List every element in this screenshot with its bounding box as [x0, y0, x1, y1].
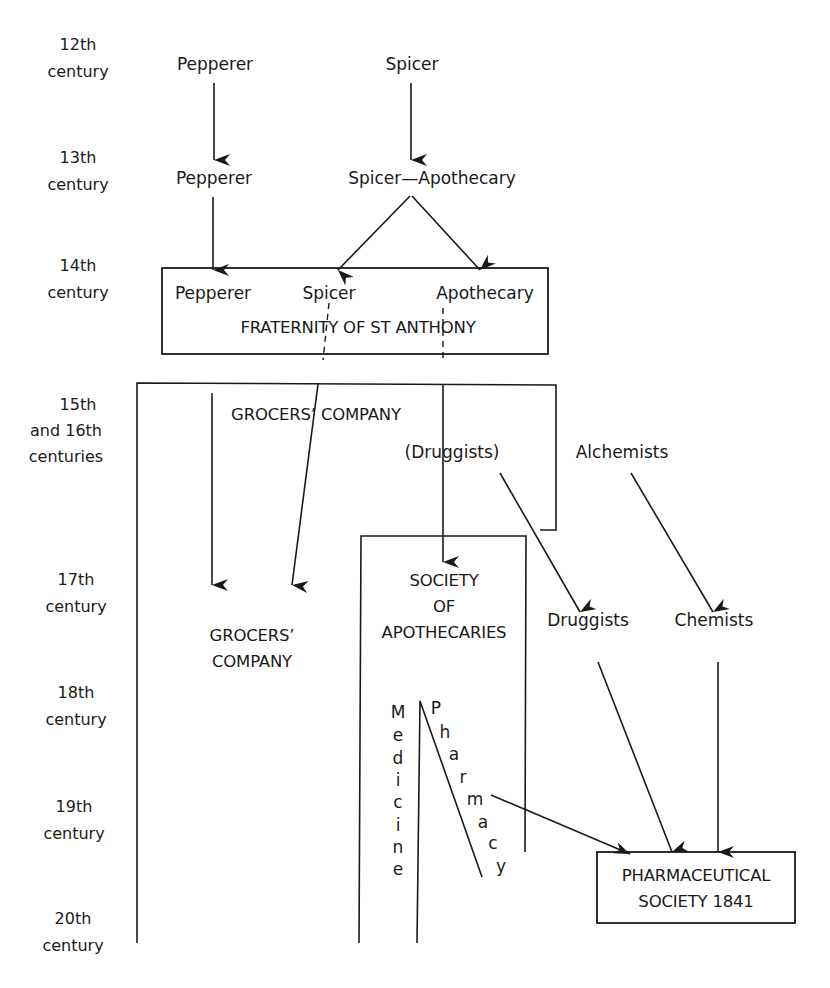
- century-13-label: 13th: [60, 148, 97, 167]
- svg-text:c: c: [393, 792, 402, 812]
- svg-text:i: i: [396, 815, 401, 835]
- century-15-label: 15th: [60, 395, 97, 414]
- node-druggists-17: Druggists: [547, 610, 629, 630]
- node-spicer-12: Spicer: [385, 54, 438, 74]
- node-spicer-apothecary-13: Spicer—Apothecary: [348, 168, 516, 188]
- medicine-label: M e d i c i n e: [391, 702, 406, 879]
- node-pepperer-14: Pepperer: [175, 283, 251, 303]
- svg-text:a: a: [478, 812, 488, 832]
- century-17-sub: century: [45, 597, 106, 616]
- arrow-to-spicer-14: [338, 196, 410, 270]
- grocers-company-17-line1: GROCERS’: [210, 626, 295, 645]
- century-17-label: 17th: [58, 570, 95, 589]
- fraternity-title: FRATERNITY OF ST ANTHONY: [240, 318, 476, 337]
- node-alchemists: Alchemists: [576, 442, 669, 462]
- arrow-pharmacy-to-society: [491, 795, 630, 854]
- arrow-to-apothecary-14: [412, 196, 480, 270]
- svg-text:a: a: [449, 744, 459, 764]
- society-line1: SOCIETY: [409, 571, 479, 590]
- guild-bracket: [137, 383, 556, 943]
- svg-text:e: e: [393, 859, 403, 879]
- arrow-druggists: [500, 473, 580, 612]
- pharmacy-label: P h a r m a c y: [431, 698, 506, 876]
- node-spicer-14: Spicer: [302, 283, 355, 303]
- pharmaceutical-society-line1: PHARMACEUTICAL: [622, 866, 772, 885]
- century-19-label: 19th: [56, 797, 93, 816]
- society-line3: APOTHECARIES: [382, 623, 507, 642]
- arrow-druggists-to-society: [598, 662, 672, 852]
- society-line2: OF: [433, 597, 455, 616]
- grocers-company-17-line2: COMPANY: [212, 652, 293, 671]
- svg-text:c: c: [488, 833, 497, 853]
- svg-text:P: P: [431, 698, 441, 718]
- fraternity-box: [162, 268, 548, 354]
- pharmaceutical-society-box: [597, 852, 795, 923]
- svg-text:i: i: [396, 770, 401, 790]
- node-druggists-paren: (Druggists): [405, 442, 500, 462]
- node-pepperer-12: Pepperer: [177, 54, 253, 74]
- svg-text:n: n: [393, 837, 404, 857]
- century-18-sub: century: [45, 710, 106, 729]
- century-18-label: 18th: [58, 683, 95, 702]
- century-13-sub: century: [47, 175, 108, 194]
- pharmaceutical-society-line2: SOCIETY 1841: [638, 892, 753, 911]
- svg-text:e: e: [393, 725, 403, 745]
- century-19-sub: century: [43, 824, 104, 843]
- node-apothecary-14: Apothecary: [436, 283, 534, 303]
- century-15-sub: and 16th: [30, 421, 102, 440]
- century-14-sub: century: [47, 283, 108, 302]
- svg-text:y: y: [496, 856, 506, 876]
- century-15-sub2: centuries: [29, 447, 103, 466]
- svg-text:d: d: [393, 748, 404, 768]
- arrow-alchemists-chemists: [631, 473, 713, 612]
- node-pepperer-13: Pepperer: [176, 168, 252, 188]
- century-12-label: 12th: [60, 35, 97, 54]
- svg-text:r: r: [460, 767, 467, 787]
- svg-text:h: h: [440, 722, 451, 742]
- grocers-company-15: GROCERS’ COMPANY: [231, 405, 402, 424]
- svg-text:M: M: [391, 702, 406, 722]
- century-14-label: 14th: [60, 256, 97, 275]
- svg-text:m: m: [467, 789, 484, 809]
- century-20-label: 20th: [55, 909, 92, 928]
- pharmacy-history-diagram: 12th century 13th century 14th century 1…: [0, 0, 830, 988]
- node-chemists-17: Chemists: [675, 610, 754, 630]
- century-12-sub: century: [47, 62, 108, 81]
- century-axis: 12th century 13th century 14th century 1…: [29, 35, 109, 955]
- century-20-sub: century: [42, 936, 103, 955]
